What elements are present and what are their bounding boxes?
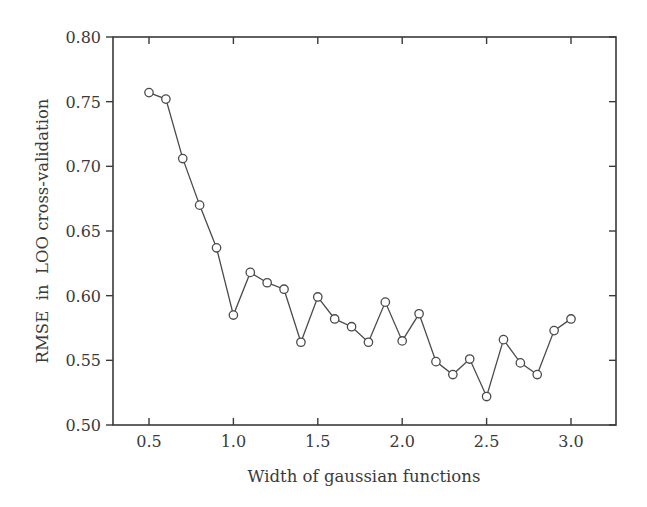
- x-tick-label: 1.0: [221, 432, 246, 451]
- data-point-marker: [550, 326, 558, 334]
- x-tick-label: 0.5: [136, 432, 161, 451]
- data-point-marker: [499, 335, 507, 343]
- data-point-marker: [229, 311, 237, 319]
- data-point-marker: [145, 88, 153, 96]
- data-point-marker: [263, 279, 271, 287]
- data-point-marker: [398, 337, 406, 345]
- data-point-marker: [567, 315, 575, 323]
- data-series: [145, 88, 575, 400]
- x-tick-label: 2.0: [389, 432, 414, 451]
- y-axis-label: RMSE in LOO cross-validation: [33, 98, 52, 363]
- x-axis-label: Width of gaussian functions: [248, 467, 481, 486]
- data-point-marker: [297, 338, 305, 346]
- data-point-marker: [516, 359, 524, 367]
- data-point-marker: [212, 244, 220, 252]
- data-point-marker: [195, 201, 203, 209]
- data-point-marker: [533, 370, 541, 378]
- data-point-marker: [432, 357, 440, 365]
- x-axis-ticks: 0.51.01.52.02.53.0: [136, 37, 583, 451]
- x-tick-label: 2.5: [474, 432, 499, 451]
- y-tick-label: 0.50: [65, 416, 101, 435]
- x-tick-label: 3.0: [558, 432, 583, 451]
- line-chart: 0.51.01.52.02.53.0 0.500.550.600.650.700…: [0, 0, 647, 507]
- data-point-marker: [466, 355, 474, 363]
- data-point-marker: [347, 323, 355, 331]
- data-point-marker: [162, 95, 170, 103]
- series-line: [149, 93, 571, 397]
- y-tick-label: 0.60: [65, 287, 101, 306]
- y-tick-label: 0.80: [65, 28, 101, 47]
- data-point-marker: [280, 285, 288, 293]
- data-point-marker: [415, 310, 423, 318]
- data-point-marker: [482, 392, 490, 400]
- data-point-marker: [314, 293, 322, 301]
- data-point-marker: [330, 315, 338, 323]
- data-point-marker: [179, 154, 187, 162]
- data-point-marker: [364, 338, 372, 346]
- y-tick-label: 0.75: [65, 93, 101, 112]
- x-tick-label: 1.5: [305, 432, 330, 451]
- data-point-marker: [246, 268, 254, 276]
- y-tick-label: 0.55: [65, 351, 101, 370]
- y-tick-label: 0.70: [65, 157, 101, 176]
- y-tick-label: 0.65: [65, 222, 101, 241]
- data-point-marker: [381, 298, 389, 306]
- data-point-marker: [449, 370, 457, 378]
